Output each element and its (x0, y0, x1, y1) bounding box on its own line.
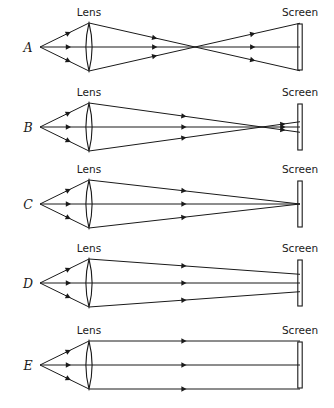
incident-ray-E-0 (40, 341, 89, 365)
refracted-ray-C-0 (89, 180, 300, 204)
panel-letter-C: C (23, 197, 33, 212)
refracted-arrow-E-0 (181, 338, 186, 343)
refracted-ray-D-2 (89, 292, 300, 307)
panel-B: LensScreenB (22, 86, 318, 151)
refracted-arrow-A-0 (152, 35, 158, 40)
incident-arrow-B-1 (66, 124, 71, 129)
refracted-ray-D-0 (89, 259, 300, 274)
ray-diagram-figure: LensScreenALensScreenBLensScreenCLensScr… (0, 0, 334, 408)
incident-arrow-A-1 (66, 44, 71, 49)
panel-A: LensScreenA (22, 6, 318, 71)
refracted-arrow-E-2 (181, 386, 186, 391)
refracted-arrow-D-2 (181, 298, 186, 303)
refracted-ray-B-2 (89, 122, 300, 151)
lens-label-A: Lens (77, 6, 101, 18)
refracted-arrow-E-1 (181, 362, 186, 367)
refracted-ray-C-2 (89, 204, 300, 228)
incident-arrow-E-1 (66, 362, 71, 367)
refracted-arrow-C-1 (181, 201, 186, 206)
screen-label-B: Screen (282, 86, 318, 98)
refracted-arrow-D-1 (181, 280, 186, 285)
incident-ray-C-2 (40, 204, 89, 228)
incident-arrow-D-1 (66, 280, 71, 285)
panel-letter-D: D (22, 276, 33, 291)
screen-label-D: Screen (282, 242, 318, 254)
refracted-arrow-B-1 (181, 124, 186, 129)
refracted-arrow2-A-2 (250, 32, 256, 37)
panel-letter-E: E (22, 358, 32, 373)
refracted-arrow-B-0 (181, 113, 187, 118)
lens-label-C: Lens (77, 163, 101, 175)
lens-label-E: Lens (77, 324, 101, 336)
screen-label-E: Screen (282, 324, 318, 336)
panel-C: LensScreenC (23, 163, 318, 228)
refracted-arrow2-A-0 (250, 57, 256, 62)
incident-ray-D-2 (40, 283, 89, 307)
incident-ray-C-0 (40, 180, 89, 204)
refracted-arrow-A-1 (152, 44, 157, 49)
incident-ray-D-0 (40, 259, 89, 283)
panel-letter-A: A (22, 40, 32, 55)
screen-label-C: Screen (282, 163, 318, 175)
refracted-arrow-B-2 (181, 136, 187, 141)
refracted-arrow2-A-1 (250, 44, 255, 49)
incident-ray-E-2 (40, 365, 89, 389)
incident-ray-B-0 (40, 103, 89, 127)
ray-diagram-canvas: LensScreenALensScreenBLensScreenCLensScr… (0, 0, 334, 408)
incident-ray-A-2 (40, 47, 89, 71)
incident-arrow-C-1 (66, 201, 71, 206)
incident-ray-A-0 (40, 23, 89, 47)
panel-E: LensScreenE (22, 324, 318, 392)
lens-label-B: Lens (77, 86, 101, 98)
refracted-arrow-A-2 (152, 54, 158, 59)
incident-ray-B-2 (40, 127, 89, 151)
screen-label-A: Screen (282, 6, 318, 18)
lens-label-D: Lens (77, 242, 101, 254)
panel-letter-B: B (22, 120, 32, 135)
refracted-arrow-D-0 (181, 263, 186, 268)
refracted-ray-B-0 (89, 103, 300, 132)
panel-D: LensScreenD (22, 242, 318, 307)
